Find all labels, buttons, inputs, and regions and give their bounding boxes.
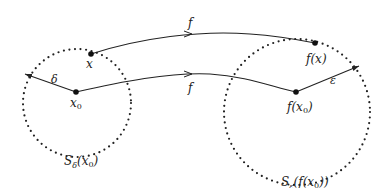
epsilon-radius-line — [296, 66, 359, 92]
label-x: x — [86, 57, 93, 71]
point-x0 — [73, 89, 79, 95]
point-fx — [312, 40, 318, 46]
label-epsilon-neighborhood: Sε(f(x0)) — [281, 175, 329, 188]
continuity-diagram: x x0 δ f f f(x) f(x0) ε Sδ(x0) Sε(f(x0)) — [0, 0, 383, 188]
label-delta-neighborhood: Sδ(x0) — [64, 154, 99, 170]
point-x — [88, 51, 94, 57]
label-x0: x0 — [70, 96, 82, 111]
label-fx: f(x) — [305, 52, 327, 66]
label-epsilon: ε — [330, 74, 336, 87]
label-f-upper: f — [187, 16, 195, 30]
label-delta: δ — [51, 73, 58, 86]
mapping-arrow-upper-icon — [184, 31, 192, 37]
mapping-curve-x — [91, 33, 315, 54]
label-fx0: f(x0) — [286, 100, 313, 115]
label-f-lower: f — [187, 81, 195, 95]
point-fx0 — [293, 89, 299, 95]
